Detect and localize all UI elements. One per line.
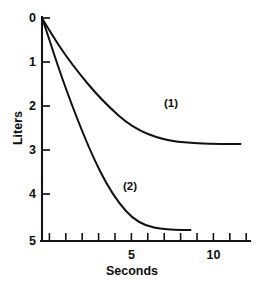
y-tick-label-2: 2 — [29, 99, 36, 113]
x-tick-label-5: 5 — [128, 248, 135, 262]
decay-curve-chart: 0 1 2 3 4 5 5 10 Sec — [0, 0, 268, 284]
y-tick-label-5: 5 — [29, 234, 36, 248]
x-tick-label-10: 10 — [206, 248, 220, 262]
series-label-1: (1) — [164, 97, 178, 109]
y-axis-title: Liters — [11, 111, 25, 145]
y-tick-label-0: 0 — [29, 11, 36, 25]
series-label-2: (2) — [123, 180, 137, 192]
y-tick-label-4: 4 — [29, 187, 36, 201]
y-tick-label-1: 1 — [29, 55, 36, 69]
chart-figure: 0 1 2 3 4 5 5 10 Sec — [0, 0, 268, 284]
y-tick-label-3: 3 — [29, 143, 36, 157]
x-axis-title: Seconds — [106, 264, 158, 278]
